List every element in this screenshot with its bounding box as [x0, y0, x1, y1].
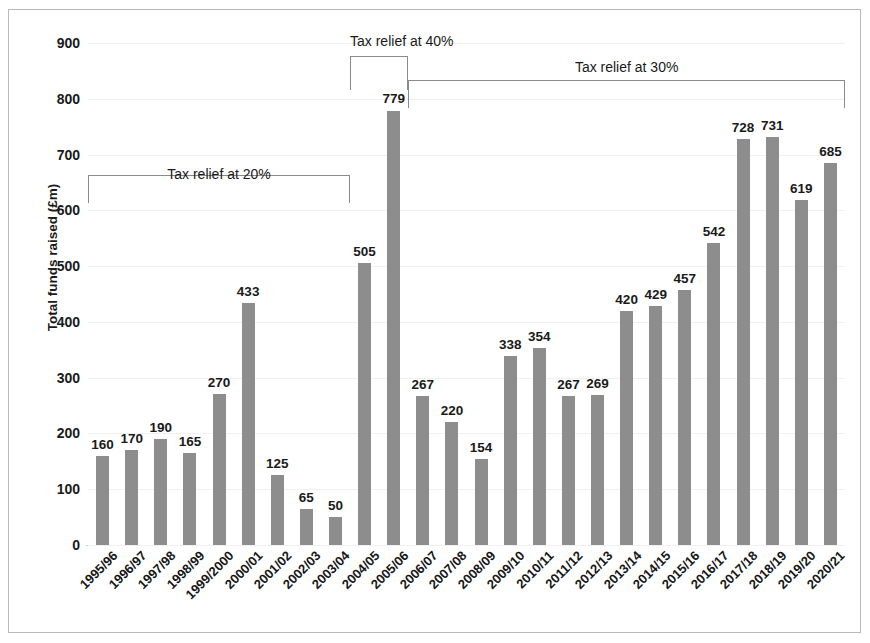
y-axis-tick-label: 800 — [40, 92, 80, 106]
bar — [766, 137, 779, 545]
bar — [737, 139, 750, 545]
bar — [649, 306, 662, 545]
bar — [707, 243, 720, 545]
y-axis-tick-label: 900 — [40, 36, 80, 50]
bar — [213, 394, 226, 545]
y-axis-tick-label: 300 — [40, 371, 80, 385]
gridline — [88, 210, 845, 211]
y-axis-tick-label: 400 — [40, 315, 80, 329]
bar — [824, 163, 837, 545]
chart-figure: Total funds raised (£m) 9008007006005004… — [0, 0, 870, 643]
bar-value-label: 269 — [575, 377, 621, 391]
bar — [125, 450, 138, 545]
bar-value-label: 542 — [691, 225, 737, 239]
bar-value-label: 505 — [342, 245, 388, 259]
bar-value-label: 190 — [138, 421, 184, 435]
bar-value-label: 50 — [312, 499, 358, 513]
gridline — [88, 489, 845, 490]
bar-value-label: 267 — [400, 378, 446, 392]
y-axis-tick-label: 700 — [40, 148, 80, 162]
annotation-bracket-label: Tax relief at 40% — [350, 33, 408, 49]
y-axis-tick-label: 100 — [40, 482, 80, 496]
bar-value-label: 270 — [196, 376, 242, 390]
bar-value-label: 619 — [778, 182, 824, 196]
plot-area: 1601701901652704331256550505779267220154… — [88, 43, 845, 545]
bar — [96, 456, 109, 545]
bar — [183, 453, 196, 545]
bar-value-label: 154 — [458, 441, 504, 455]
bar — [475, 459, 488, 545]
bar-value-label: 125 — [254, 457, 300, 471]
annotation-bracket-label: Tax relief at 20% — [88, 166, 350, 182]
bar — [416, 396, 429, 545]
gridline — [88, 545, 845, 546]
x-axis-labels: 1995/961996/971997/981998/991999/2000200… — [88, 548, 845, 628]
bar — [591, 395, 604, 545]
bar — [678, 290, 691, 545]
bar-value-label: 457 — [662, 272, 708, 286]
bar-value-label: 429 — [633, 288, 679, 302]
bar — [620, 311, 633, 545]
bar-value-label: 433 — [225, 285, 271, 299]
bar — [154, 439, 167, 545]
y-axis-tick-label: 0 — [40, 538, 80, 552]
bar — [562, 396, 575, 545]
bar — [533, 348, 546, 545]
y-axis-ticks: 9008007006005004003002001000 — [36, 43, 80, 545]
bar-value-label: 165 — [167, 435, 213, 449]
y-axis-tick-label: 200 — [40, 426, 80, 440]
bar-value-label: 685 — [807, 145, 853, 159]
bar-value-label: 731 — [749, 119, 795, 133]
bar — [445, 422, 458, 545]
bar-value-label: 220 — [429, 404, 475, 418]
bar — [358, 263, 371, 545]
gridline — [88, 155, 845, 156]
gridline — [88, 43, 845, 44]
y-axis-tick-label: 600 — [40, 203, 80, 217]
gridline — [88, 322, 845, 323]
bar — [795, 200, 808, 545]
bar — [329, 517, 342, 545]
gridline — [88, 266, 845, 267]
bar — [242, 303, 255, 545]
bar — [504, 356, 517, 545]
bar-value-label: 354 — [516, 330, 562, 344]
bar — [271, 475, 284, 545]
annotation-bracket — [408, 80, 845, 108]
annotation-bracket — [350, 56, 408, 90]
bar — [300, 509, 313, 545]
y-axis-tick-label: 500 — [40, 259, 80, 273]
bar — [387, 111, 400, 546]
annotation-bracket-label: Tax relief at 30% — [408, 59, 845, 75]
